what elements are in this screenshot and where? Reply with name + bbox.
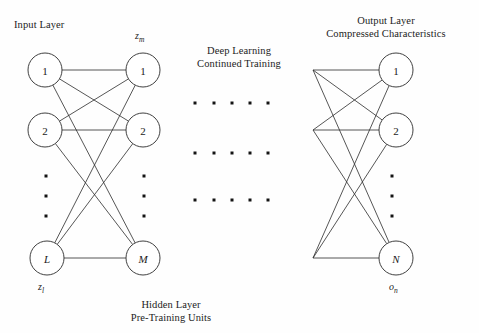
edge-source-to-output [313,70,382,120]
math-label-zl: zl [38,281,44,295]
edge-source-to-output [313,130,387,244]
middle-grid-dot-11 [213,199,216,202]
output-node-label-n: N [391,253,400,265]
math-label-zm: zm [135,30,144,44]
middle-grid-dot-4 [267,102,270,105]
middle-grid-dot-10 [194,199,197,202]
middle-grid-dot-8 [249,152,252,155]
caption-hidden-layer-line2: Pre-Training Units [108,311,234,324]
input-node-label-2: 2 [42,125,48,137]
math-label-zl-sub: l [42,286,44,295]
right-block-edges [313,70,389,258]
math-label-on-sub: n [394,286,398,295]
output-ellipsis-dot-2 [391,215,394,218]
output-ellipsis-dot-0 [391,175,394,178]
hidden-ellipsis-dot-1 [143,195,146,198]
hidden-ellipsis-dot-0 [143,175,146,178]
caption-deep-learning: Deep Learning Continued Training [178,44,300,70]
caption-deep-learning-line2: Continued Training [178,57,300,70]
middle-grid-dot-14 [267,199,270,202]
input-node-label-l: L [43,253,50,265]
edge-source-to-output [313,80,382,130]
edge-source-to-output [313,86,389,258]
output-node-label-1: 1 [393,65,399,77]
middle-grid-dot-7 [231,152,234,155]
caption-deep-learning-line1: Deep Learning [178,44,300,57]
middle-grid-dot-2 [231,102,234,105]
caption-input-layer: Input Layer [14,18,64,31]
output-ellipsis-dot-1 [391,195,394,198]
edge-source-to-output [313,70,389,242]
hidden-ellipsis-dot-2 [143,215,146,218]
middle-grid-dot-6 [213,152,216,155]
caption-output-layer-line1: Output Layer [306,14,466,27]
middle-grid-dot-12 [231,199,234,202]
middle-grid-dot-3 [249,102,252,105]
hidden-node-label-1: 1 [140,65,146,77]
right-block-nodes: 12N [379,53,413,275]
middle-grid-dot-1 [213,102,216,105]
input-node-label-1: 1 [42,65,48,77]
figure-canvas: 12L12M 12N Input Layer Deep Learning Con… [0,0,479,333]
math-label-on: on [389,281,398,295]
caption-output-layer-line2: Compressed Characteristics [306,27,466,40]
hidden-node-label-2: 2 [140,125,146,137]
middle-grid-dot-0 [194,102,197,105]
middle-grid-dot-5 [194,152,197,155]
middle-grid-dot-9 [267,152,270,155]
input-ellipsis-dot-0 [45,175,48,178]
edge-source-to-output [313,144,387,258]
math-label-zm-sub: m [139,35,144,44]
output-node-label-2: 2 [393,125,399,137]
caption-hidden-layer-line1: Hidden Layer [108,298,234,311]
middle-grid-dot-13 [249,199,252,202]
input-ellipsis-dot-1 [45,195,48,198]
left-block-edges [53,70,135,258]
input-ellipsis-dot-2 [45,215,48,218]
hidden-node-label-m: M [137,253,148,265]
caption-output-layer: Output Layer Compressed Characteristics [306,14,466,40]
caption-hidden-layer: Hidden Layer Pre-Training Units [108,298,234,324]
